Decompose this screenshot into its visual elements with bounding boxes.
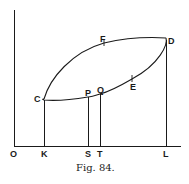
cycle-diagram: C D F E P Q O K S T L Fig. 84. <box>0 0 189 184</box>
label-S: S <box>85 149 91 159</box>
label-O: O <box>10 149 17 159</box>
label-F: F <box>100 34 106 44</box>
label-K: K <box>41 149 48 159</box>
label-Q: Q <box>97 85 104 95</box>
label-C: C <box>34 94 41 104</box>
label-P: P <box>85 88 91 98</box>
label-T: T <box>97 149 103 159</box>
label-L: L <box>163 149 169 159</box>
figure-caption: Fig. 84. <box>76 162 115 173</box>
label-D: D <box>168 36 175 46</box>
label-E: E <box>130 82 136 92</box>
